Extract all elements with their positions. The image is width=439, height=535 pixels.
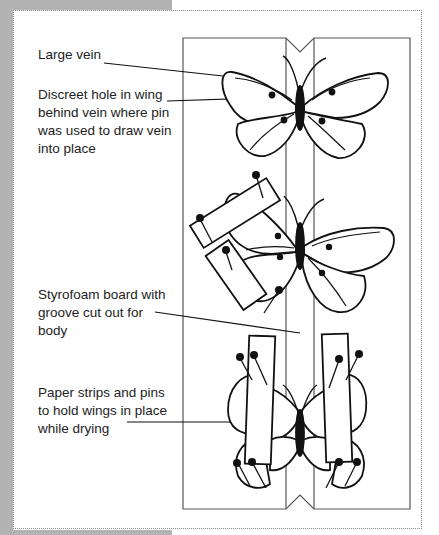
spreading-board-illustration xyxy=(0,0,439,535)
butterfly-middle xyxy=(190,171,394,313)
butterfly-top xyxy=(222,56,388,158)
butterfly-bottom xyxy=(228,334,366,488)
